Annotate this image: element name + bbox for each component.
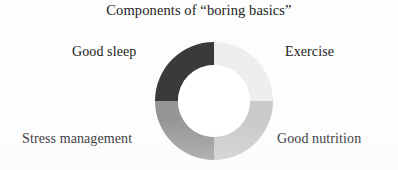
slice-label-stress-management: Stress management xyxy=(22,131,132,147)
donut-chart-graphic xyxy=(155,42,273,160)
slice-label-good-sleep: Good sleep xyxy=(72,44,136,60)
donut-hole xyxy=(178,65,250,137)
slice-label-exercise: Exercise xyxy=(285,44,334,60)
donut-chart-figure: Components of “boring basics” Good sleep… xyxy=(0,0,398,170)
donut-svg xyxy=(155,42,273,160)
slice-label-good-nutrition: Good nutrition xyxy=(277,131,361,147)
chart-title: Components of “boring basics” xyxy=(0,2,398,19)
